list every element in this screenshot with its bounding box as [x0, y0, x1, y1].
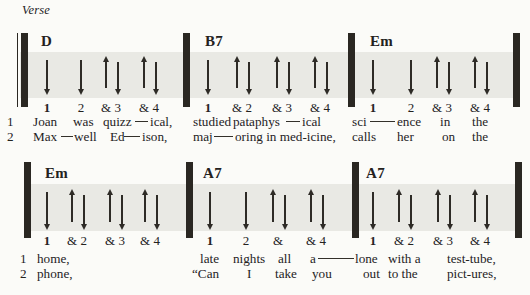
arrow-stem	[155, 62, 156, 89]
lyric-word: maj	[193, 129, 213, 145]
arrowhead	[447, 224, 453, 230]
upstroke-arrow	[311, 56, 320, 88]
lyric-word: was	[73, 114, 94, 130]
arrowhead	[81, 224, 87, 230]
arrowhead	[282, 224, 288, 230]
arrowhead	[205, 89, 211, 95]
arrow-stem	[474, 62, 475, 88]
downstroke-arrow	[319, 195, 328, 230]
lyric-word: her	[397, 129, 414, 145]
arrowhead	[44, 224, 50, 230]
arrowhead	[286, 89, 292, 95]
arrow-stem	[46, 60, 47, 89]
arrow-stem	[322, 195, 323, 224]
melisma-dash	[135, 121, 148, 122]
lyric-word: pict-ures,	[447, 266, 496, 282]
downstroke-arrow	[118, 195, 127, 230]
lyric-word: calls	[352, 129, 376, 145]
arrow-stem	[272, 195, 273, 222]
barline-thin	[17, 33, 18, 107]
lyric-word: studied	[193, 114, 231, 130]
arrow-stem	[46, 192, 47, 224]
lyric-word: pataphys	[233, 114, 280, 130]
arrow-stem	[207, 60, 208, 89]
barline-end	[513, 33, 520, 107]
verse-number: 2	[20, 266, 27, 282]
melisma-dash	[318, 258, 354, 259]
downstroke-arrow	[80, 195, 89, 230]
arrow-stem	[372, 192, 373, 224]
arrow-stem	[71, 195, 72, 222]
barline	[186, 162, 193, 238]
arrow-stem	[248, 62, 249, 89]
beat-count-label: & 4	[128, 233, 172, 249]
chord-label: Em	[45, 165, 68, 182]
arrow-stem	[410, 195, 411, 224]
verse-number: 2	[7, 129, 14, 145]
arrow-stem	[156, 195, 157, 224]
arrowhead	[484, 89, 490, 95]
downstroke-arrow	[285, 62, 294, 95]
chord-label: B7	[205, 33, 223, 50]
arrowhead	[484, 224, 490, 230]
downstroke-arrow	[152, 62, 161, 95]
upstroke-arrow	[434, 189, 443, 222]
lyric-word: oring in med-icine,	[235, 129, 336, 145]
arrow-stem	[410, 60, 411, 89]
beat-count-label: & 2	[382, 233, 426, 249]
arrow-stem	[117, 62, 118, 89]
arrow-stem	[314, 62, 315, 88]
arrowhead	[370, 224, 376, 230]
arrowhead	[115, 89, 121, 95]
lyric-word: ence	[397, 114, 421, 130]
upstroke-arrow	[102, 56, 111, 88]
lyric-word: I	[247, 266, 251, 282]
lyric-word: ison,	[142, 129, 167, 145]
lyric-word: well	[74, 129, 97, 145]
arrow-stem	[105, 62, 106, 88]
lyric-word: phone,	[37, 266, 73, 282]
verse-number: 1	[20, 251, 27, 267]
arrow-stem	[326, 62, 327, 89]
lyric-word: with a	[388, 251, 421, 267]
arrowhead	[246, 89, 252, 95]
arrowhead	[154, 224, 160, 230]
strum-pattern-page: Verse D12& 3& 4B71& 2& 3& 4Em12& 3& 41Jo…	[0, 0, 530, 295]
lyric-word: you	[312, 266, 332, 282]
downstroke-arrow	[242, 192, 251, 230]
arrowhead	[207, 224, 213, 230]
downstroke-arrow	[43, 60, 52, 95]
chord-label: A7	[203, 165, 222, 182]
upstroke-arrow	[471, 189, 480, 222]
downstroke-arrow	[369, 60, 378, 95]
section-label: Verse	[22, 3, 50, 18]
downstroke-arrow	[446, 195, 455, 230]
arrow-stem	[236, 62, 237, 88]
arrowhead	[408, 224, 414, 230]
downstroke-arrow	[323, 62, 332, 95]
beat-count-label: & 4	[458, 233, 502, 249]
downstroke-arrow	[407, 60, 416, 95]
downstroke-arrow	[407, 195, 416, 230]
downstroke-arrow	[206, 192, 215, 230]
arrow-stem	[449, 195, 450, 224]
arrowhead	[153, 89, 159, 95]
arrowhead	[370, 89, 376, 95]
downstroke-arrow	[369, 192, 378, 230]
arrow-stem	[144, 195, 145, 222]
arrowhead	[243, 224, 249, 230]
barline	[348, 33, 355, 107]
beat-count-label: & 4	[294, 233, 338, 249]
upstroke-arrow	[395, 189, 404, 222]
lyric-word: the	[472, 129, 488, 145]
upstroke-arrow	[140, 56, 149, 88]
barline	[21, 33, 28, 107]
lyric-word: on	[442, 129, 455, 145]
arrow-stem	[437, 195, 438, 222]
arrow-stem	[474, 195, 475, 222]
upstroke-arrow	[141, 189, 150, 222]
arrow-stem	[372, 60, 373, 89]
lyric-word: all	[278, 251, 291, 267]
verse-number: 1	[7, 114, 14, 130]
arrow-stem	[486, 62, 487, 89]
